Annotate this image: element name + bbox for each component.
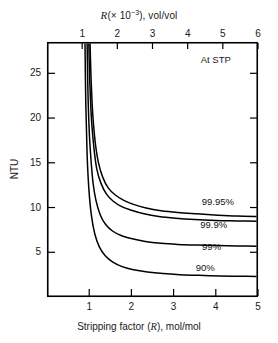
curve-99 [86,36,258,246]
curve-9995 [89,36,258,216]
plot-area [0,0,278,343]
plot-frame [48,43,258,297]
curves-group [84,36,258,276]
curve-90 [84,36,258,276]
figure-chart-ntu-vs-stripping-factor: R(× 10−3), vol/vol Stripping factor (R),… [0,0,278,343]
